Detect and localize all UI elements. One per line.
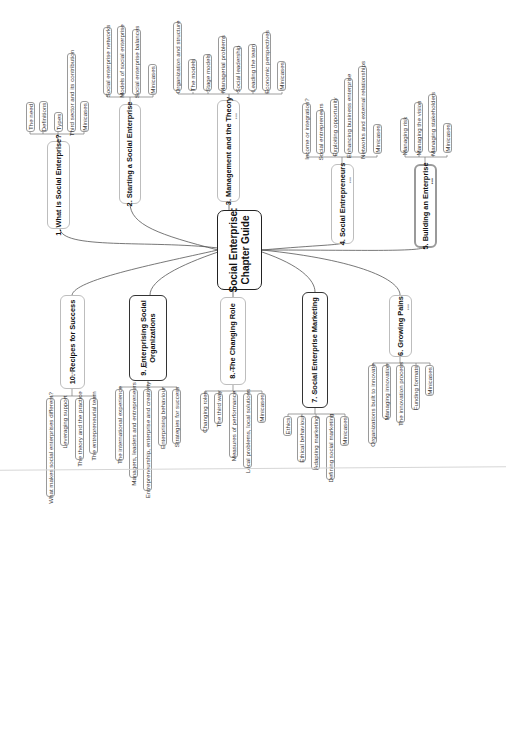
chapter-7-topic-2[interactable]: Ethical behaviour <box>297 416 306 462</box>
chapter-4-topic-4[interactable]: Enhancing business enterprise <box>344 78 353 154</box>
chapter-3-topic-4[interactable]: Managerial problems <box>218 36 227 91</box>
chapter-6-topic-2[interactable]: Managing innovation <box>382 365 391 419</box>
chapter-4-topic-1[interactable]: Income or integration? <box>302 103 311 154</box>
chapter-1-topic-4[interactable]: Third sector and its contribution <box>67 53 76 132</box>
chapter-6-topic-5[interactable]: Minicases <box>425 365 434 396</box>
collapse-dots-icon[interactable]: ••• <box>233 113 239 119</box>
chapter-3-topic-3[interactable]: Stage models <box>203 54 212 91</box>
chapter-1-topic-3[interactable]: Types <box>54 112 63 132</box>
chapter-6-node[interactable]: 6. Growing Pains ••• <box>389 295 412 357</box>
chapter-7-topic-4[interactable]: Defining social marketing <box>326 416 335 480</box>
chapter-6-topic-4[interactable]: Funding formats <box>411 365 420 410</box>
collapse-dots-icon[interactable]: ••• <box>230 366 236 372</box>
chapter-10-topic-3[interactable]: The theory and the practice <box>75 398 84 460</box>
chapter-3-topic-2[interactable]: The models <box>188 59 197 91</box>
chapter-4-topic-6[interactable]: Minicases <box>373 124 382 154</box>
chapter-5-topic-4[interactable]: Minicases <box>443 123 452 153</box>
collapse-dots-icon[interactable]: ••• <box>312 389 318 395</box>
chapter-3-topic-5[interactable]: Social leadership <box>233 46 242 91</box>
chapter-3-topic-8[interactable]: Minicases <box>277 61 286 91</box>
chapter-9-node[interactable]: 9. Enterprising SocialOrganizations ••• <box>129 295 167 381</box>
chapter-10-topic-4[interactable]: The entrepreneurial team <box>89 398 98 454</box>
chapter-7-node[interactable]: 7. Social Enterprise Marketing ••• <box>302 292 328 408</box>
chapter-3-title: 3. Management and the Theory <box>224 97 233 205</box>
chapter-7-topic-5[interactable]: Minicases <box>340 416 349 446</box>
chapter-2-node[interactable]: 2. Starting a Social Enterprise ••• <box>119 104 141 204</box>
chapter-4-title: 4. Social Entrepreneurs <box>338 163 347 246</box>
chapter-8-topic-2[interactable]: The third way <box>214 393 223 424</box>
chapter-2-topic-1[interactable]: Social enterprise networks <box>103 27 112 95</box>
chapter-5-title: 5. Building an Enterprise <box>421 162 430 249</box>
chapter-8-topic-1[interactable]: Changing roles <box>200 393 209 431</box>
chapter-2-topic-4[interactable]: Minicases <box>148 64 157 95</box>
chapter-9-topic-2[interactable]: Managers, leaders and entrepreneurs <box>129 389 138 478</box>
chapter-7-topic-1[interactable]: Ethics <box>283 416 292 436</box>
mind-map-canvas: Social Enterprise:Chapter Guide 1. What … <box>0 0 506 732</box>
chapter-10-topic-1[interactable]: What makes social enterprises different? <box>46 398 55 497</box>
chapter-1-node[interactable]: 1. What is Social Enterprise? ••• <box>47 141 70 229</box>
chapter-7-title: 7. Social Enterprise Marketing <box>310 297 319 403</box>
chapter-10-topic-2[interactable]: Leveraging support <box>60 398 69 446</box>
chapter-4-topic-2[interactable]: Social entrepreneurs <box>316 110 325 154</box>
collapse-dots-icon[interactable]: ••• <box>126 185 132 191</box>
collapse-dots-icon[interactable]: ••• <box>347 177 353 183</box>
chapter-3-topic-1[interactable]: Organization and structure <box>173 22 182 91</box>
chapter-8-topic-3[interactable]: Measures of performance <box>229 393 238 458</box>
collapse-dots-icon[interactable]: ••• <box>429 178 435 184</box>
chapter-5-topic-1[interactable]: Managing risk <box>400 118 409 153</box>
central-title-line2: Chapter Guide <box>240 216 251 285</box>
chapter-9-topic-3[interactable]: Entrepreneurship, enterprise and creativ… <box>143 389 152 491</box>
chapter-3-node[interactable]: 3. Management and the Theory ••• <box>217 100 240 202</box>
chapter-2-topic-2[interactable]: Models of social enterprise <box>117 26 126 95</box>
chapter-9-topic-4[interactable]: Enterprising behaviour <box>158 389 167 446</box>
chapter-8-node[interactable]: 8. The Changing Role ••• <box>220 297 246 385</box>
chapter-6-topic-3[interactable]: The innovation process <box>396 365 405 423</box>
central-title-line1: Social Enterprise: <box>228 207 239 292</box>
chapter-1-topic-1[interactable]: The need <box>26 102 35 132</box>
chapter-1-topic-2[interactable]: Definitions <box>39 101 48 132</box>
chapter-10-node[interactable]: 10. Recipes for Success ••• <box>60 295 85 389</box>
chapter-7-topic-3[interactable]: Adapting marketing <box>311 416 320 470</box>
chapter-3-topic-7[interactable]: Economic perspectives <box>262 32 271 91</box>
central-topic-node[interactable]: Social Enterprise:Chapter Guide <box>217 210 262 290</box>
chapter-4-node[interactable]: 4. Social Entrepreneurs ••• <box>331 164 354 244</box>
chapter-4-topic-3[interactable]: Exploiting opportunity <box>330 99 339 154</box>
chapter-6-title: 6. Growing Pains <box>396 296 405 356</box>
chapter-5-node[interactable]: 5. Building an Enterprise ••• <box>414 164 437 248</box>
chapter-1-title: 1. What is Social Enterprise? <box>54 134 63 235</box>
chapter-4-topic-5[interactable]: Networks and external relationships <box>358 66 367 154</box>
collapse-dots-icon[interactable]: ••• <box>57 210 63 216</box>
chapter-1-topic-5[interactable]: Minicases <box>80 101 89 132</box>
chapter-8-topic-4[interactable]: Local problems, local solutions <box>243 393 252 468</box>
collapse-dots-icon[interactable]: ••• <box>143 362 149 368</box>
chapter-9-topic-1[interactable]: The international experience <box>115 389 124 461</box>
chapter-8-topic-5[interactable]: Minicases <box>257 393 266 423</box>
collapse-dots-icon[interactable]: ••• <box>405 304 411 310</box>
collapse-dots-icon[interactable]: ••• <box>69 370 75 376</box>
chapter-3-topic-6[interactable]: Leading the team <box>248 44 257 91</box>
chapter-2-topic-3[interactable]: Social enterprise balances <box>132 29 141 95</box>
chapter-5-topic-2[interactable]: Managing the vision <box>414 102 423 153</box>
chapter-6-topic-1[interactable]: Organizations built to innovate <box>368 365 377 444</box>
chapter-9-topic-5[interactable]: Strategies for success <box>172 389 181 444</box>
chapter-5-topic-3[interactable]: Managing stakeholders <box>428 94 437 153</box>
